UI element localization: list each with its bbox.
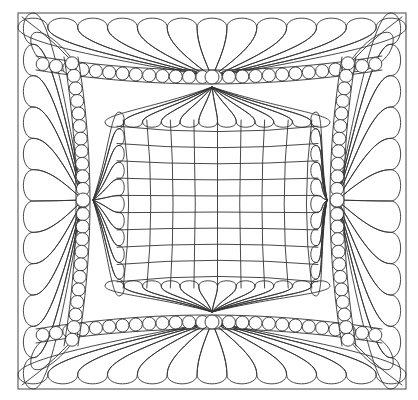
center-crosshatch-grid xyxy=(117,120,318,288)
pearl-bead-band xyxy=(36,56,382,346)
quilt-pattern-canvas xyxy=(0,0,418,400)
feather-quilt-design xyxy=(0,0,418,400)
